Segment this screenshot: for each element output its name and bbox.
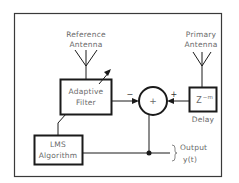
output-brace-icon <box>172 145 177 161</box>
reference-antenna-label-line1: Reference <box>66 30 106 39</box>
plus-sign: + <box>171 90 178 99</box>
minus-sign: − <box>127 90 134 99</box>
adaptive-filter-label-line1: Adaptive <box>69 87 104 96</box>
primary-antenna-label-line2: Antenna <box>185 40 218 49</box>
reference-antenna-label-line2: Antenna <box>70 40 103 49</box>
primary-antenna-icon <box>193 52 211 87</box>
adaptive-filter-label-line2: Filter <box>76 98 96 107</box>
lms-to-filter-line <box>58 114 66 135</box>
output-label-line1: Output <box>180 143 207 152</box>
adaptive-noise-cancellation-diagram: Reference Antenna Adaptive Filter − + + … <box>0 0 239 183</box>
output-label-line2: y(t) <box>183 155 197 164</box>
delay-exponent: −m <box>203 94 213 100</box>
junction-dot <box>147 151 152 156</box>
adaptive-filter-box <box>61 80 112 115</box>
primary-antenna-label-line1: Primary <box>186 30 217 39</box>
lms-label-line1: LMS <box>50 140 66 149</box>
summing-symbol: + <box>149 96 157 106</box>
delay-symbol: Z <box>196 96 202 105</box>
reference-antenna-icon <box>75 50 97 79</box>
delay-label: Delay <box>192 115 215 124</box>
lms-label-line2: Algorithm <box>39 151 78 160</box>
